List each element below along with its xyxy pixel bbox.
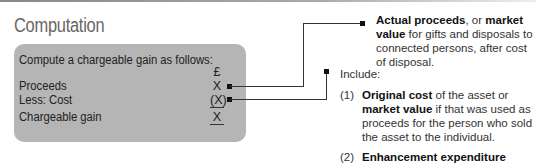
proceeds-note-bold1: Actual proceeds	[376, 14, 465, 26]
proceeds-connector-v	[303, 23, 304, 87]
row-label-proceeds: Proceeds	[19, 79, 67, 93]
list-item-number: (2)	[340, 150, 354, 164]
top-rule	[0, 0, 536, 2]
cost-connector-h	[230, 99, 327, 100]
row-value-cost: (X)	[210, 93, 224, 108]
list-item: (2) Enhancement expenditure which was re…	[340, 150, 536, 166]
cost-note-list: (1) Original cost of the asset or market…	[340, 88, 536, 166]
proceeds-connector-h1	[230, 86, 304, 87]
list-item-bold1: Enhancement expenditure	[362, 151, 506, 163]
list-item-text1: of the asset or	[432, 89, 508, 101]
list-item-number: (1)	[340, 88, 354, 102]
row-label-cost: Less: Cost	[19, 93, 72, 107]
cost-connector-v	[326, 71, 327, 100]
currency-symbol: £	[204, 65, 230, 79]
list-item-text1: which was reflected in the state and nat…	[362, 165, 522, 166]
cost-note-heading: Include:	[340, 68, 380, 80]
section-title: Computation	[14, 14, 104, 37]
box-intro: Compute a chargeable gain as follows:	[19, 53, 213, 67]
row-value-gain: X	[210, 110, 224, 125]
list-item-bold1: Original cost	[362, 89, 432, 101]
row-label-gain: Chargeable gain	[19, 110, 102, 124]
proceeds-note-marker	[360, 21, 365, 26]
proceeds-note-text1: , or	[465, 14, 485, 26]
computation-box: Compute a chargeable gain as follows: £ …	[14, 44, 246, 142]
list-item-bold2: market value	[362, 103, 432, 115]
proceeds-note: Actual proceeds, or market value for gif…	[376, 13, 536, 69]
proceeds-connector-h2	[303, 23, 361, 24]
list-item: (1) Original cost of the asset or market…	[340, 88, 536, 144]
cost-note-marker	[324, 69, 329, 74]
